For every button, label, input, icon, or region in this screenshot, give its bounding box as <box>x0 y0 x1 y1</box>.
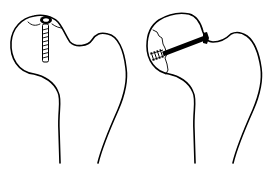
panel-right-femur <box>135 0 270 177</box>
femur-vertical-screw-drawing <box>0 0 135 177</box>
screw-threads <box>150 49 164 61</box>
screw-shaft <box>163 38 205 54</box>
screw-head-icon <box>203 32 209 44</box>
screw-head-slot <box>43 18 49 22</box>
femur-outline <box>11 15 127 163</box>
femur-oblique-screw-drawing <box>135 0 270 177</box>
panel-left-femur <box>0 0 135 177</box>
